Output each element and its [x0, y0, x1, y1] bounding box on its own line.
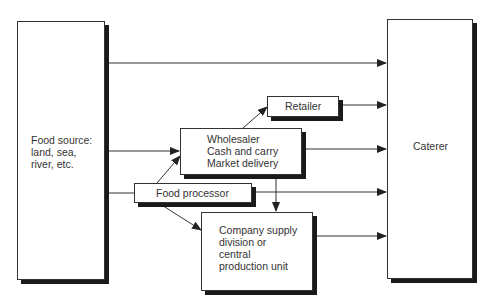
food-source-line2: land, sea,: [31, 146, 77, 159]
food-source-line1: Food source:: [31, 134, 92, 147]
arrow-wholesaler-to-retailer: [243, 107, 267, 128]
wholesaler-line3: Market delivery: [207, 157, 278, 170]
arrow-processor-to-wholesaler: [157, 156, 180, 183]
arrow-processor-to-company: [157, 202, 201, 230]
company-supply-box: Company supply division or central produ…: [201, 212, 313, 291]
wholesaler-box: Wholesaler Cash and carry Market deliver…: [180, 128, 302, 175]
food-source-box: Food source: land, sea, river, etc.: [17, 21, 105, 280]
wholesaler-line1: Wholesaler: [207, 133, 260, 146]
food-processor-label: Food processor: [156, 187, 229, 200]
company-supply-line1: Company supply: [219, 224, 297, 237]
retailer-label: Retailer: [285, 100, 321, 113]
company-supply-line2: division or: [219, 236, 266, 249]
caterer-box: Caterer: [387, 19, 473, 279]
food-processor-box: Food processor: [134, 183, 252, 203]
company-supply-line3: central: [219, 248, 251, 261]
retailer-box: Retailer: [267, 96, 339, 117]
food-source-line3: river, etc.: [31, 158, 74, 171]
caterer-label: Caterer: [413, 140, 448, 153]
company-supply-line4: production unit: [219, 260, 288, 273]
wholesaler-line2: Cash and carry: [207, 145, 278, 158]
